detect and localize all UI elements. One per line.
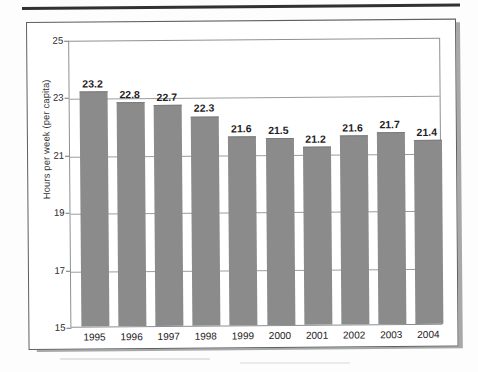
bar [191,116,221,326]
y-axis-tick-label: 17 [39,264,65,275]
scan-speckle [240,362,350,364]
bar-value-label: 22.8 [110,88,150,100]
bar-chart: Hours per week (per capita) 151719212325… [26,19,457,348]
bar-value-label: 21.7 [370,118,410,130]
x-axis-tick-labels: 1995199619971998199920002001200220032004 [26,19,454,22]
bar [228,136,257,326]
bar-value-label: 22.3 [184,102,224,114]
scan-speckle [60,358,210,360]
y-axis-tick-marks [26,19,454,22]
y-axis-tick-label: 15 [39,322,65,333]
bar-series [69,39,441,327]
y-axis-tick-label: 25 [37,35,63,46]
bar-value-label: 23.2 [72,77,112,89]
bar [117,102,147,326]
bar-value-label: 22.7 [147,91,187,103]
bar [154,105,184,326]
y-axis-title: Hours per week (per capita) [40,54,52,224]
bar-value-label: 21.6 [332,121,372,133]
bar [340,135,369,325]
scanned-page: Hours per week (per capita) 151719212325… [0,0,478,372]
bar [265,138,294,325]
x-axis-tick-label: 2004 [406,329,450,340]
y-axis-tick-labels: 151719212325 [26,19,454,22]
bar-value-label: 21.2 [295,133,335,145]
bar [414,140,443,324]
bar-value-label: 21.4 [407,126,447,138]
bar-value-label: 21.6 [221,122,261,134]
bar [303,147,332,325]
bar [80,91,110,327]
top-rule-divider [22,4,460,10]
bar-value-label: 21.5 [258,124,298,136]
y-axis-tick-label: 23 [38,92,64,103]
y-axis-tick-label: 21 [38,150,64,161]
y-axis-tick-label: 19 [38,207,64,218]
plot-area [68,38,442,328]
bar [377,132,407,324]
y-axis-tick-mark [66,328,71,329]
bar-value-labels: 23.222.822.722.321.621.521.221.621.721.4 [26,19,454,22]
